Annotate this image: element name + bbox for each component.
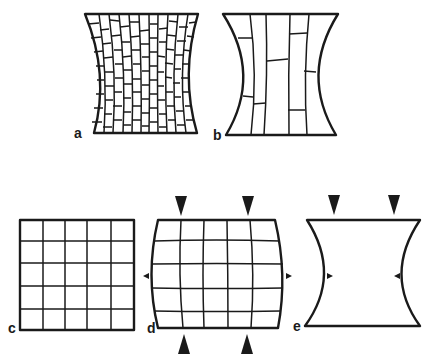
panel-b-outline bbox=[223, 14, 338, 135]
panel-a-label: a bbox=[74, 125, 82, 141]
figure-canvas: a b c bbox=[0, 0, 432, 361]
panel-d-label: d bbox=[147, 320, 156, 336]
arrow-down-icon bbox=[328, 195, 340, 215]
panel-a: a bbox=[74, 14, 198, 141]
panel-d-grid bbox=[152, 220, 283, 328]
arrow-down-icon bbox=[242, 196, 254, 216]
arrow-right-icon bbox=[327, 273, 333, 279]
panel-c-grid bbox=[20, 220, 134, 330]
panel-d: d bbox=[143, 196, 292, 354]
arrow-up-icon bbox=[241, 334, 253, 354]
panel-c-outline bbox=[20, 220, 134, 330]
arrow-down-icon bbox=[175, 196, 187, 216]
arrow-right-icon bbox=[286, 273, 292, 279]
arrow-down-icon bbox=[388, 195, 400, 215]
panel-b-label: b bbox=[213, 127, 222, 143]
panel-e-arrows bbox=[327, 195, 400, 279]
arrow-left-icon bbox=[394, 273, 400, 279]
panel-a-cell-walls bbox=[88, 14, 196, 133]
panel-e-outline bbox=[305, 220, 420, 326]
panel-e-label: e bbox=[293, 318, 301, 334]
panel-e: e bbox=[293, 195, 420, 334]
panel-b-cell-walls bbox=[238, 14, 316, 135]
panel-c-label: c bbox=[8, 320, 16, 336]
arrow-up-icon bbox=[178, 334, 190, 354]
arrow-left-icon bbox=[143, 273, 149, 279]
panel-b: b bbox=[213, 14, 338, 143]
panel-c: c bbox=[8, 220, 134, 336]
